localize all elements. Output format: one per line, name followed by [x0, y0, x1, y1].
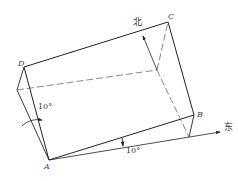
north-label: 北 [133, 18, 142, 27]
point-c-label: C [168, 13, 174, 21]
point-d-label: D [18, 60, 24, 68]
tilt-angle-label: 10° [38, 103, 52, 111]
east-label: 东 [224, 123, 233, 132]
point-a-label: A [44, 163, 50, 171]
block-diagram [0, 0, 238, 181]
diagram-canvas: D C B A 北 东 10° 10° [0, 0, 238, 181]
angle-arc-bottom [122, 138, 123, 146]
hidden-edges [17, 22, 189, 137]
point-b-label: B [197, 111, 203, 119]
side-edges [17, 67, 194, 160]
rotation-angle-label: 10° [126, 147, 140, 155]
north-arrow [143, 36, 157, 70]
front-face [24, 22, 194, 160]
